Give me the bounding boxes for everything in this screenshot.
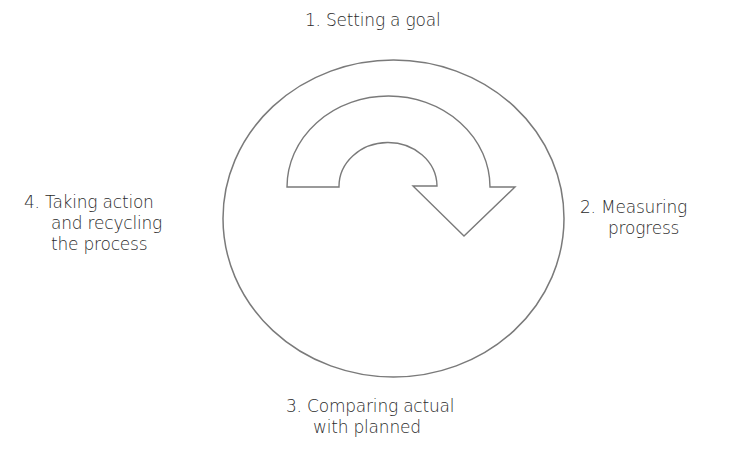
step-4-line-1: 4. Taking action [24, 192, 162, 213]
step-2-line-1: 2. Measuring [580, 197, 687, 218]
step-3-line-2: with planned [286, 417, 454, 438]
step-1-setting-goal: 1. Setting a goal [305, 10, 440, 31]
step-3-line-1: 3. Comparing actual [286, 396, 454, 417]
clockwise-arrow-icon [287, 96, 515, 236]
step-3-comparing-actual: 3. Comparing actual with planned [286, 396, 454, 438]
step-1-line-1: 1. Setting a goal [305, 10, 440, 31]
step-2-measuring-progress: 2. Measuring progress [580, 197, 687, 239]
step-2-line-2: progress [580, 218, 687, 239]
step-4-line-2: and recycling [24, 213, 162, 234]
step-4-line-3: the process [24, 234, 162, 255]
step-4-taking-action: 4. Taking action and recycling the proce… [24, 192, 162, 255]
